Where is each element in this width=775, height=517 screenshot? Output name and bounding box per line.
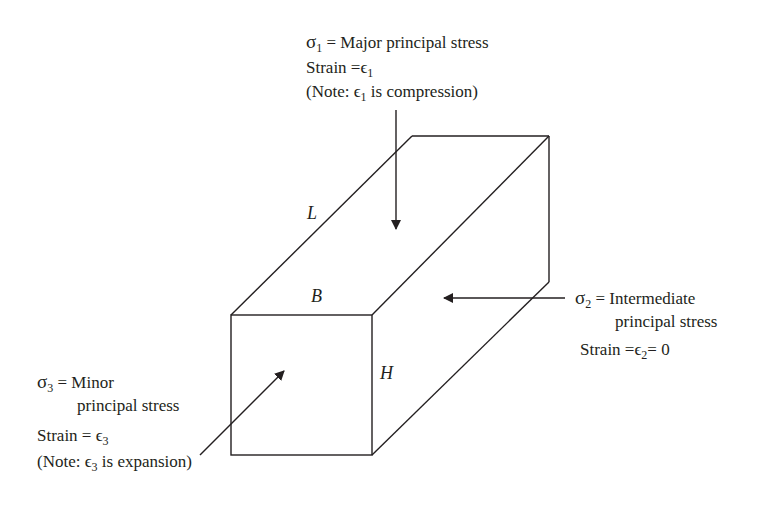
- sigma1-eq: =: [327, 33, 337, 52]
- sigma2-strain: Strain =ϵ2= 0: [580, 340, 670, 361]
- sigma1-note-sub: 1: [361, 90, 367, 104]
- sigma1-title: σ1 = Major principal stress: [306, 32, 489, 54]
- sigma3-note-rest: is expansion): [98, 452, 192, 471]
- sigma2-subscript: 2: [585, 297, 591, 311]
- sigma3-note-sub: 3: [92, 460, 98, 474]
- breadth-label: B: [311, 286, 322, 307]
- sigma2-eq: =: [596, 289, 606, 308]
- sigma1-symbol: σ: [306, 31, 316, 52]
- sigma3-note-symbol: ϵ: [85, 452, 92, 471]
- sigma1-label: Major principal stress: [340, 33, 488, 52]
- epsilon1-subscript: 1: [367, 66, 373, 80]
- sigma1-note-symbol: ϵ: [354, 82, 361, 101]
- stress-block-diagram: [0, 0, 775, 517]
- edge-bottom-right: [372, 282, 549, 455]
- sigma1-strain-prefix: Strain =: [306, 58, 360, 77]
- sigma3-subscript: 3: [47, 381, 53, 395]
- front-face: [231, 315, 372, 455]
- sigma1-note-open: (Note:: [306, 82, 354, 101]
- sigma1-note-rest: is compression): [367, 82, 478, 101]
- block-outline: [231, 136, 549, 455]
- sigma3-eq: =: [58, 373, 68, 392]
- sigma3-title: σ3 = Minor: [37, 372, 114, 394]
- sigma3-note: (Note: ϵ3 is expansion): [37, 452, 192, 473]
- sigma2-strain-suffix: = 0: [647, 340, 669, 359]
- sigma3-note-open: (Note:: [37, 452, 85, 471]
- epsilon3-subscript: 3: [103, 434, 109, 448]
- sigma3-strain-prefix: Strain =: [37, 426, 91, 445]
- sigma2-strain-prefix: Strain =: [580, 340, 634, 359]
- sigma3-label-line2: principal stress: [77, 396, 179, 416]
- sigma3-label-line1: Minor: [71, 373, 114, 392]
- sigma3-strain: Strain = ϵ3: [37, 426, 109, 447]
- sigma1-note: (Note: ϵ1 is compression): [306, 82, 478, 103]
- epsilon2-subscript: 2: [641, 348, 647, 362]
- sigma2-label-line1: Intermediate: [609, 289, 695, 308]
- sigma1-subscript: 1: [316, 41, 322, 55]
- edge-top-right: [372, 136, 549, 315]
- sigma2-title: σ2 = Intermediate: [575, 288, 695, 310]
- sigma2-label-line2: principal stress: [615, 312, 717, 332]
- sigma3-symbol: σ: [37, 371, 47, 392]
- height-label: H: [380, 363, 393, 384]
- sigma2-symbol: σ: [575, 287, 585, 308]
- length-label: L: [307, 203, 317, 224]
- sigma1-strain: Strain =ϵ1: [306, 58, 373, 79]
- sigma3-arrow: [200, 371, 284, 455]
- epsilon3-symbol: ϵ: [96, 426, 103, 445]
